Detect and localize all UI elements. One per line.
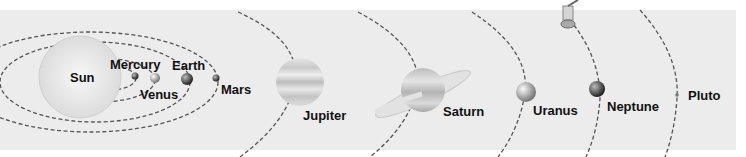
label-earth: Earth — [172, 59, 205, 72]
neptune-body — [589, 81, 605, 97]
label-sun: Sun — [70, 71, 95, 84]
label-venus: Venus — [140, 88, 178, 101]
label-saturn: Saturn — [443, 105, 484, 118]
mercury-body — [132, 73, 139, 80]
diagram-canvas — [0, 0, 746, 157]
label-mercury: Mercury — [110, 58, 161, 71]
uranus-body — [516, 82, 536, 102]
venus-body — [150, 73, 160, 83]
label-neptune: Neptune — [607, 100, 659, 113]
pluto-body — [675, 93, 679, 97]
label-pluto: Pluto — [688, 89, 721, 102]
label-jupiter: Jupiter — [303, 109, 346, 122]
mars-body — [213, 75, 220, 82]
label-uranus: Uranus — [533, 104, 578, 117]
label-mars: Mars — [221, 83, 251, 96]
earth-body — [181, 73, 193, 85]
jupiter-body — [276, 58, 324, 106]
solar-system-diagram: Sun Mercury Venus Earth Mars Jupiter Sat… — [0, 0, 746, 157]
